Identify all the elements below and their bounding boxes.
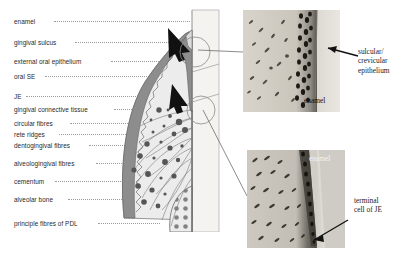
label-cementum: cementum bbox=[14, 178, 44, 186]
panel-top-enamel-label: enamel bbox=[304, 96, 325, 105]
panel-bottom-enamel-label: enamel bbox=[309, 154, 330, 163]
label-external-oral-epithelium: external oral epithelium bbox=[14, 58, 81, 66]
label-gingival-sulcus: gingival sulcus bbox=[14, 39, 56, 47]
label-rete-ridges: rete ridges bbox=[14, 131, 45, 139]
panel-sulcular-crevicular-epithelium: enamel bbox=[243, 10, 340, 112]
panel-bottom-callout-label: terminal cell of JE bbox=[354, 196, 382, 215]
label-circular-fibres: circular fibres bbox=[14, 120, 53, 128]
figure-canvas: enamel gingival sulcus external oral epi… bbox=[0, 0, 412, 265]
label-enamel: enamel bbox=[14, 18, 35, 26]
panel-top-callout-label: sulcular/ crevicular epithelium bbox=[358, 47, 390, 75]
label-dentogingival-fibres: dentogingival fibres bbox=[14, 142, 70, 150]
label-gingival-connective-tissue: gingival connective tissue bbox=[14, 106, 88, 114]
dentogingival-junction-diagram bbox=[118, 6, 230, 232]
label-alveolar-bone: alveolar bone bbox=[14, 196, 53, 204]
panel-terminal-cell-of-je: enamel bbox=[247, 150, 345, 248]
label-principle-fibres-of-pdl: principle fibres of PDL bbox=[14, 220, 78, 228]
label-je: JE bbox=[14, 93, 22, 101]
label-alveologingival-fibres: alveologingival fibres bbox=[14, 160, 74, 168]
label-oral-se: oral SE bbox=[14, 73, 35, 81]
enamel-band bbox=[192, 10, 219, 232]
